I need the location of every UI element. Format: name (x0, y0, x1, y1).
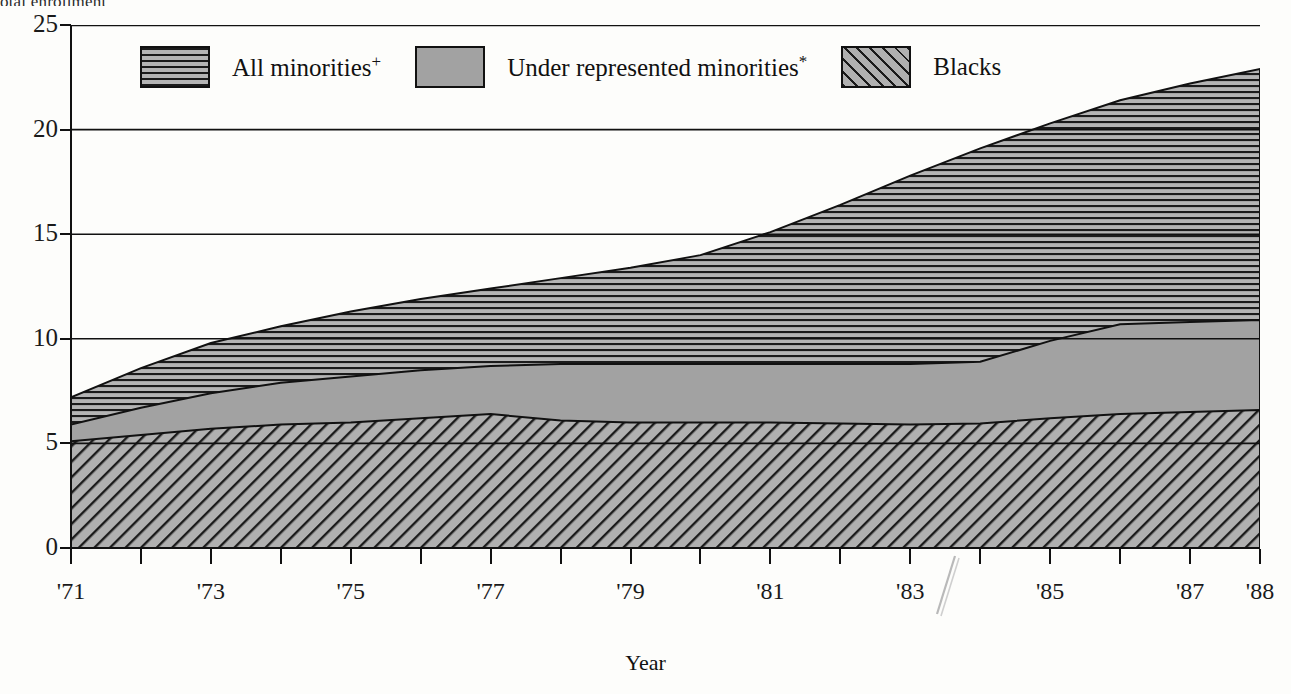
x-tick-label: '79 (616, 578, 644, 604)
x-tick-mark (1189, 549, 1191, 564)
x-tick-mark (420, 549, 422, 564)
x-tick-mark (699, 549, 701, 564)
x-tick-mark (1259, 549, 1261, 564)
legend-item-all-minorities: All minorities+ (140, 46, 381, 88)
x-tick-label: '87 (1176, 578, 1204, 604)
clipped-top-caption: otal enrollment (0, 0, 300, 6)
x-tick-label: '85 (1036, 578, 1064, 604)
x-tick-mark (1049, 549, 1051, 564)
x-tick-mark (490, 549, 492, 564)
x-tick-mark (979, 549, 981, 564)
x-tick-label: '75 (337, 578, 365, 604)
y-tick-label: 20 (14, 116, 58, 141)
plot-area (71, 25, 1260, 548)
x-tick-mark (630, 549, 632, 564)
horizontal-hatch-swatch-icon (140, 46, 210, 88)
x-tick-mark (280, 549, 282, 564)
y-tick-label: 10 (14, 325, 58, 350)
x-tick-mark (909, 549, 911, 564)
x-tick-mark (1119, 549, 1121, 564)
scan-artifact-mark (925, 552, 965, 622)
legend-superscript: + (372, 52, 382, 71)
diagonal-hatch-swatch-icon (841, 46, 911, 88)
area-series-group (71, 25, 1260, 548)
x-tick-mark (70, 549, 72, 564)
area-blacks (71, 410, 1260, 548)
legend-text: Blacks (933, 53, 1001, 80)
x-tick-label: '83 (896, 578, 924, 604)
x-tick-label: '77 (476, 578, 504, 604)
y-tick-label: 5 (14, 429, 58, 454)
legend-label-all-minorities: All minorities+ (232, 52, 381, 82)
legend-superscript: * (799, 52, 808, 71)
x-tick-mark (350, 549, 352, 564)
solid-gray-swatch-icon (415, 46, 485, 88)
x-tick-mark (210, 549, 212, 564)
x-tick-mark (839, 549, 841, 564)
x-tick-label: '81 (756, 578, 784, 604)
x-tick-label: '71 (57, 578, 85, 604)
y-tick-label: 0 (14, 534, 58, 559)
chart-figure: otal enrollment 2520151050 '71'73'75'77'… (0, 0, 1291, 694)
x-tick-label: '73 (197, 578, 225, 604)
legend: All minorities+ Under represented minori… (140, 46, 1035, 88)
legend-item-blacks: Blacks (841, 46, 1001, 88)
x-tick-mark (769, 549, 771, 564)
legend-label-under-represented-minorities: Under represented minorities* (507, 52, 807, 82)
y-tick-label: 15 (14, 220, 58, 245)
x-axis-title: Year (0, 650, 1291, 676)
legend-text: All minorities (232, 54, 372, 81)
x-tick-mark (140, 549, 142, 564)
legend-label-blacks: Blacks (933, 53, 1001, 81)
x-tick-mark (560, 549, 562, 564)
y-tick-label: 25 (14, 11, 58, 36)
legend-text: Under represented minorities (507, 54, 799, 81)
legend-item-under-represented-minorities: Under represented minorities* (415, 46, 807, 88)
x-tick-label: '88 (1246, 578, 1274, 604)
